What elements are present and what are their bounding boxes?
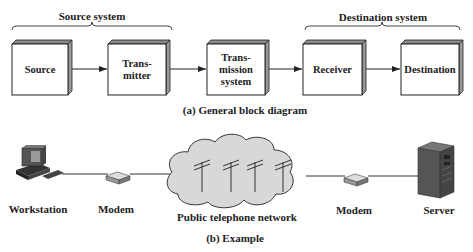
source-system-label: Source system bbox=[40, 10, 144, 22]
block-label-transmission-system: Trans- mission system bbox=[207, 44, 265, 95]
destination-system-label: Destination system bbox=[318, 11, 448, 23]
caption-b: (b) Example bbox=[200, 232, 270, 244]
block-label-destination: Destination bbox=[401, 44, 459, 95]
server-label: Server bbox=[418, 204, 460, 216]
destination-system-brace bbox=[305, 22, 460, 30]
block-label-source: Source bbox=[12, 44, 68, 95]
server-icon bbox=[418, 142, 454, 198]
workstation-label: Workstation bbox=[6, 203, 70, 215]
modem-icon-2 bbox=[344, 174, 368, 186]
network-label: Public telephone network bbox=[172, 211, 302, 223]
caption-a: (a) General block diagram bbox=[170, 104, 320, 116]
workstation-icon bbox=[16, 145, 64, 180]
block-label-receiver: Receiver bbox=[303, 44, 362, 95]
block-label-transmitter: Trans- mitter bbox=[108, 44, 166, 95]
modem-label-1: Modem bbox=[95, 203, 137, 215]
modem-icon-1 bbox=[106, 172, 130, 184]
cloud-icon bbox=[167, 134, 293, 208]
modem-label-2: Modem bbox=[333, 204, 375, 216]
source-system-brace bbox=[12, 22, 172, 30]
